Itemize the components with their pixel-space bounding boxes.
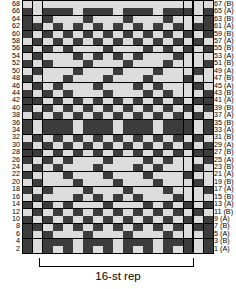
stitch-cell[interactable] [123, 202, 132, 209]
stitch-cell[interactable] [53, 68, 62, 75]
stitch-cell[interactable] [133, 194, 142, 201]
stitch-cell[interactable] [194, 90, 203, 97]
stitch-cell[interactable] [133, 105, 142, 112]
stitch-cell[interactable] [143, 135, 152, 142]
stitch-cell[interactable] [123, 23, 132, 30]
stitch-cell[interactable] [123, 83, 132, 90]
stitch-cell[interactable] [103, 224, 112, 231]
stitch-cell[interactable] [163, 68, 172, 75]
stitch-cell[interactable] [143, 105, 152, 112]
stitch-cell[interactable] [73, 90, 82, 97]
stitch-cell[interactable] [194, 202, 203, 209]
stitch-cell[interactable] [133, 23, 142, 30]
stitch-cell[interactable] [173, 142, 182, 149]
stitch-cell[interactable] [123, 53, 132, 60]
stitch-cell[interactable] [153, 8, 162, 15]
stitch-cell[interactable] [143, 60, 152, 67]
stitch-cell[interactable] [113, 150, 122, 157]
stitch-cell[interactable] [93, 246, 102, 253]
stitch-cell[interactable] [133, 8, 142, 15]
stitch-cell[interactable] [33, 179, 42, 186]
stitch-cell[interactable] [143, 8, 152, 15]
stitch-cell[interactable] [73, 31, 82, 38]
stitch-cell[interactable] [204, 194, 213, 201]
stitch-cell[interactable] [53, 150, 62, 157]
stitch-cell[interactable] [153, 224, 162, 231]
stitch-cell[interactable] [153, 120, 162, 127]
stitch-cell[interactable] [73, 209, 82, 216]
stitch-cell[interactable] [113, 239, 122, 246]
stitch-cell[interactable] [33, 31, 42, 38]
stitch-cell[interactable] [204, 16, 213, 23]
stitch-cell[interactable] [133, 98, 142, 105]
stitch-cell[interactable] [53, 209, 62, 216]
stitch-cell[interactable] [173, 120, 182, 127]
stitch-cell[interactable] [83, 194, 92, 201]
stitch-cell[interactable] [113, 164, 122, 171]
stitch-cell[interactable] [93, 68, 102, 75]
stitch-cell[interactable] [133, 246, 142, 253]
stitch-cell[interactable] [33, 231, 42, 238]
stitch-cell[interactable] [204, 172, 213, 179]
stitch-cell[interactable] [63, 142, 72, 149]
stitch-cell[interactable] [93, 216, 102, 223]
stitch-cell[interactable] [173, 1, 182, 8]
stitch-cell[interactable] [123, 179, 132, 186]
stitch-cell[interactable] [103, 202, 112, 209]
stitch-cell[interactable] [153, 46, 162, 53]
stitch-cell[interactable] [83, 179, 92, 186]
stitch-cell[interactable] [194, 105, 203, 112]
stitch-cell[interactable] [83, 98, 92, 105]
stitch-cell[interactable] [53, 202, 62, 209]
stitch-cell[interactable] [73, 224, 82, 231]
stitch-cell[interactable] [113, 38, 122, 45]
stitch-cell[interactable] [43, 68, 52, 75]
stitch-cell[interactable] [163, 194, 172, 201]
stitch-cell[interactable] [43, 83, 52, 90]
stitch-cell[interactable] [113, 172, 122, 179]
stitch-cell[interactable] [143, 231, 152, 238]
stitch-cell[interactable] [113, 1, 122, 8]
stitch-cell[interactable] [33, 157, 42, 164]
stitch-cell[interactable] [163, 202, 172, 209]
stitch-cell[interactable] [103, 231, 112, 238]
stitch-cell[interactable] [93, 239, 102, 246]
stitch-cell[interactable] [113, 8, 122, 15]
stitch-cell[interactable] [123, 150, 132, 157]
stitch-cell[interactable] [153, 16, 162, 23]
stitch-cell[interactable] [163, 16, 172, 23]
stitch-cell[interactable] [53, 75, 62, 82]
stitch-cell[interactable] [43, 8, 52, 15]
stitch-cell[interactable] [63, 239, 72, 246]
stitch-cell[interactable] [103, 209, 112, 216]
stitch-cell[interactable] [63, 23, 72, 30]
stitch-cell[interactable] [133, 150, 142, 157]
stitch-cell[interactable] [153, 172, 162, 179]
stitch-cell[interactable] [113, 157, 122, 164]
stitch-cell[interactable] [143, 127, 152, 134]
stitch-cell[interactable] [204, 83, 213, 90]
stitch-cell[interactable] [123, 90, 132, 97]
stitch-cell[interactable] [204, 1, 213, 8]
stitch-cell[interactable] [73, 127, 82, 134]
stitch-cell[interactable] [143, 68, 152, 75]
stitch-cell[interactable] [123, 172, 132, 179]
stitch-cell[interactable] [33, 83, 42, 90]
stitch-cell[interactable] [43, 142, 52, 149]
stitch-cell[interactable] [113, 246, 122, 253]
stitch-cell[interactable] [194, 68, 203, 75]
stitch-cell[interactable] [43, 75, 52, 82]
stitch-cell[interactable] [153, 216, 162, 223]
stitch-cell[interactable] [133, 179, 142, 186]
stitch-cell[interactable] [43, 90, 52, 97]
stitch-cell[interactable] [133, 46, 142, 53]
stitch-cell[interactable] [63, 216, 72, 223]
stitch-cell[interactable] [173, 187, 182, 194]
stitch-cell[interactable] [33, 164, 42, 171]
stitch-cell[interactable] [133, 112, 142, 119]
stitch-cell[interactable] [33, 105, 42, 112]
stitch-cell[interactable] [194, 120, 203, 127]
stitch-cell[interactable] [204, 231, 213, 238]
stitch-cell[interactable] [63, 179, 72, 186]
stitch-cell[interactable] [63, 246, 72, 253]
